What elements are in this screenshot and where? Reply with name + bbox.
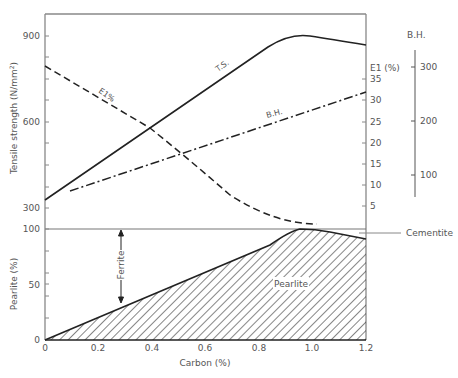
bh-axis: [411, 50, 415, 197]
e1-curve: [45, 66, 317, 224]
svg-text:10: 10: [370, 180, 382, 190]
pearlite-axis-labels: 100 50 0: [23, 224, 40, 345]
svg-text:30: 30: [370, 95, 382, 105]
ts-tick-600: 600: [23, 117, 40, 127]
bh-axis-labels: B.H. 300 200 100: [407, 30, 437, 180]
svg-text:20: 20: [370, 138, 382, 148]
x-axis-title: Carbon (%): [180, 358, 231, 368]
e1-label: E1%: [97, 86, 117, 104]
svg-text:5: 5: [370, 201, 376, 211]
cementite-label: Cementite: [406, 228, 453, 238]
tensile-axis-labels: 900 600 300: [23, 31, 40, 213]
ferrite-label: Ferrite: [116, 250, 126, 279]
pearlite-area: [45, 229, 366, 340]
svg-text:35: 35: [370, 74, 381, 84]
svg-text:15: 15: [370, 159, 381, 169]
x-axis-labels: 0 0.2 0.4 0.6 0.8 1.0 1.2: [42, 343, 373, 353]
svg-text:0.8: 0.8: [252, 343, 267, 353]
ts-tick-300: 300: [23, 203, 40, 213]
svg-text:0.2: 0.2: [91, 343, 105, 353]
tensile-axis-title: Tensile strength (N/mm2): [8, 62, 19, 175]
bh-label: B.H.: [265, 107, 283, 120]
p-tick-50: 50: [29, 280, 41, 290]
pearlite-axis-title: Pearlite (%): [9, 258, 19, 310]
e1-axis-labels: E1 (%) 35 30 25 20 15 10 5: [370, 63, 400, 211]
svg-text:300: 300: [420, 62, 437, 72]
svg-text:200: 200: [420, 116, 437, 126]
bh-axis-title: B.H.: [407, 30, 426, 40]
svg-text:1.2: 1.2: [359, 343, 373, 353]
p-tick-100: 100: [23, 224, 40, 234]
svg-text:0.6: 0.6: [198, 343, 213, 353]
carbon-steel-properties-chart: 900 600 300 Tensile strength (N/mm2) 100…: [0, 0, 458, 378]
ts-curve: [45, 35, 366, 200]
ts-label: T.S.: [213, 58, 231, 74]
ts-tick-900: 900: [23, 31, 40, 41]
svg-text:1.0: 1.0: [305, 343, 320, 353]
svg-text:0.4: 0.4: [145, 343, 160, 353]
p-tick-0: 0: [34, 335, 40, 345]
pearlite-label: Pearlite: [274, 279, 308, 289]
svg-text:25: 25: [370, 117, 381, 127]
e1-axis-title: E1 (%): [370, 63, 400, 73]
svg-text:100: 100: [420, 170, 437, 180]
svg-text:0: 0: [42, 343, 48, 353]
